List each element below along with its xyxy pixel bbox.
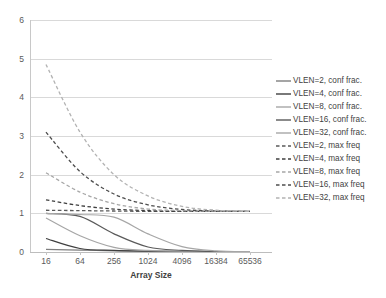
series-line <box>46 132 250 211</box>
legend-item[interactable]: VLEN=16, conf frac. <box>276 113 386 126</box>
legend-label: VLEN=4, max freq <box>293 154 360 164</box>
dashed-line-icon <box>276 193 291 203</box>
legend-label: VLEN=8, max freq <box>293 167 360 177</box>
legend-label: VLEN=2, max freq <box>293 141 360 151</box>
legend-item[interactable]: VLEN=32, max freq <box>276 192 386 205</box>
legend-label: VLEN=4, conf frac. <box>293 89 362 99</box>
x-tick-mark <box>182 252 183 255</box>
x-tick-label: 4096 <box>173 256 192 266</box>
x-tick-mark <box>148 252 149 255</box>
dashed-line-icon <box>276 154 291 164</box>
legend-item[interactable]: VLEN=32, conf frac. <box>276 126 386 139</box>
x-tick-label: 16384 <box>204 256 228 266</box>
series-line <box>46 213 250 251</box>
x-tick-label: 16 <box>41 256 50 266</box>
x-tick-label: 256 <box>107 256 121 266</box>
dashed-line-icon <box>276 141 291 151</box>
series-line <box>46 64 250 211</box>
solid-line-icon <box>276 115 291 125</box>
x-tick-mark <box>216 252 217 255</box>
series-line <box>46 213 250 252</box>
legend-item[interactable]: VLEN=8, max freq <box>276 166 386 179</box>
solid-line-icon <box>276 102 291 112</box>
solid-line-icon <box>276 76 291 86</box>
legend-label: VLEN=16, conf frac. <box>293 115 367 125</box>
legend-item[interactable]: VLEN=2, conf frac. <box>276 74 386 87</box>
legend-label: VLEN=2, conf frac. <box>293 76 362 86</box>
legend-item[interactable]: VLEN=2, max freq <box>276 139 386 152</box>
dashed-line-icon <box>276 180 291 190</box>
x-tick-label: 65536 <box>238 256 262 266</box>
solid-line-icon <box>276 89 291 99</box>
legend-label: VLEN=32, conf frac. <box>293 128 367 138</box>
x-tick-mark <box>114 252 115 255</box>
legend-label: VLEN=32, max freq <box>293 193 365 203</box>
legend-item[interactable]: VLEN=4, max freq <box>276 153 386 166</box>
x-tick-label: 64 <box>75 256 84 266</box>
legend-label: VLEN=8, conf frac. <box>293 102 362 112</box>
x-tick-mark <box>250 252 251 255</box>
solid-line-icon <box>276 128 291 138</box>
legend-label: VLEN=16, max freq <box>293 180 365 190</box>
chart-legend: VLEN=2, conf frac.VLEN=4, conf frac.VLEN… <box>276 74 386 205</box>
x-tick-mark <box>80 252 81 255</box>
legend-item[interactable]: VLEN=4, conf frac. <box>276 87 386 100</box>
legend-item[interactable]: VLEN=8, conf frac. <box>276 100 386 113</box>
x-tick-mark <box>46 252 47 255</box>
series-lines <box>30 20 272 252</box>
dashed-line-icon <box>276 167 291 177</box>
x-axis-title: Array Size <box>30 270 272 280</box>
chart-container: 0123456 1664256102440961638465536 Array … <box>0 0 386 298</box>
x-tick-label: 1024 <box>139 256 158 266</box>
legend-item[interactable]: VLEN=16, max freq <box>276 179 386 192</box>
